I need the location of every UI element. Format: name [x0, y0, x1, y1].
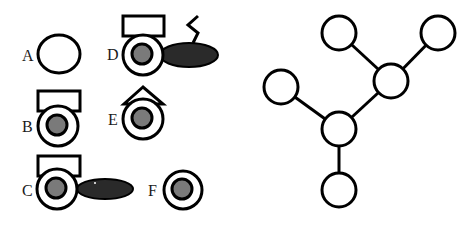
- tail-ellipse: [160, 43, 218, 67]
- tree-node-top-left: [322, 16, 356, 50]
- variant-label: F: [148, 182, 157, 199]
- variant-label: C: [22, 182, 33, 199]
- outer-ring: [38, 35, 80, 73]
- inner-core: [46, 178, 66, 198]
- inner-core: [132, 108, 152, 128]
- variant-label: D: [107, 46, 119, 63]
- variant-label: A: [22, 47, 34, 64]
- figure-canvas: ABCDEF: [0, 0, 464, 228]
- tree-node-bottom: [322, 173, 356, 207]
- tail-ellipse: [77, 179, 133, 199]
- variant-label: B: [22, 118, 33, 135]
- inner-core: [132, 44, 152, 64]
- tree-node-mid-right: [374, 64, 408, 98]
- inner-core: [47, 115, 67, 135]
- tree-node-top-right: [421, 16, 455, 50]
- highlight-speck: [94, 182, 96, 184]
- inner-core: [172, 179, 192, 199]
- tree-node-center: [322, 112, 356, 146]
- cap-rectangle: [123, 16, 164, 36]
- tree-node-left: [264, 70, 298, 104]
- variant-label: E: [108, 111, 118, 128]
